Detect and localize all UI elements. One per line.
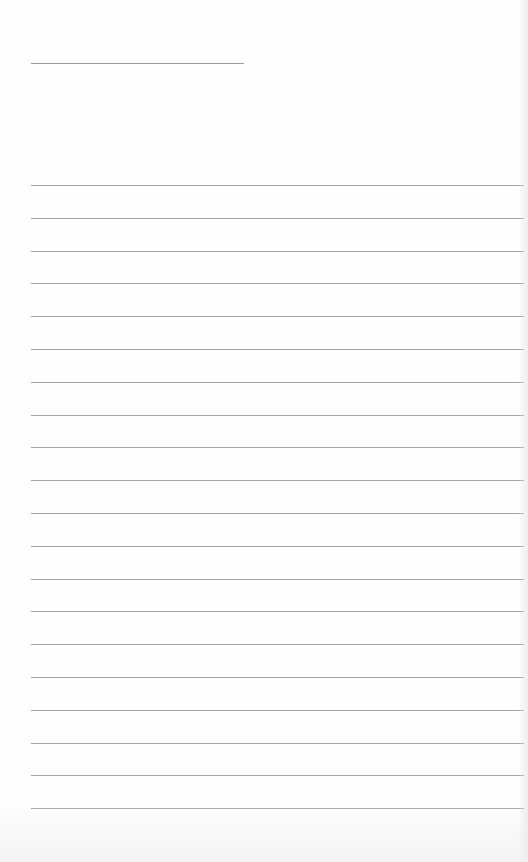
ruled-line [31,382,524,383]
ruled-line [31,546,524,547]
lined-paper-page [0,0,528,862]
page-edge-shadow [518,0,528,862]
ruled-line [31,251,524,252]
ruled-line [31,283,524,284]
ruled-line [31,743,524,744]
ruled-line [31,447,524,448]
ruled-line [31,579,524,580]
ruled-line [31,185,524,186]
ruled-line [31,218,524,219]
ruled-line [31,710,524,711]
ruled-line [31,415,524,416]
ruled-line [31,808,524,809]
ruled-line [31,316,524,317]
ruled-line [31,611,524,612]
ruled-line [31,513,524,514]
ruled-line [31,349,524,350]
ruled-line [31,775,524,776]
ruled-line [31,480,524,481]
ruled-line [31,644,524,645]
ruled-line [31,677,524,678]
header-title-line [31,63,244,64]
